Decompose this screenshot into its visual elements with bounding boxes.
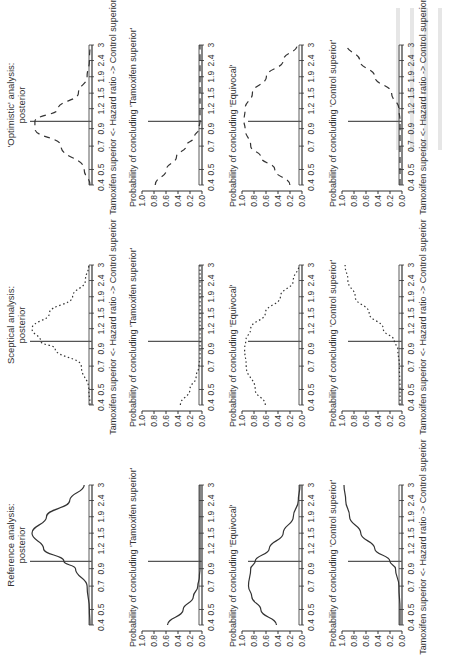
y-tick-label: 0.0 [197, 635, 207, 647]
x-tick-label: 2.4 [206, 494, 216, 506]
x-tick-label: 0.4 [96, 179, 106, 191]
y-tick-label: 1.0 [137, 415, 147, 427]
probability-panel: Probability of concluding 'Control super… [328, 439, 428, 655]
y-tick-label: 0.0 [397, 195, 407, 207]
y-tick-label: 1.0 [237, 195, 247, 207]
x-tick-label: 0.4 [406, 399, 416, 411]
y-tick-label: 1.0 [337, 415, 347, 427]
data-curve [32, 485, 90, 625]
column-reference: Reference analysis:posterior0.40.50.70.9… [5, 439, 428, 655]
x-axis-label: Tamoxifen superior <- Hazard ratio -> Co… [418, 0, 428, 215]
x-tick-label: 0.5 [96, 163, 106, 175]
x-tick-label: 1.9 [406, 511, 416, 523]
x-tick-label: 0.4 [206, 399, 216, 411]
x-tick-label: 2.4 [306, 54, 316, 66]
x-tick-label: 0.5 [406, 163, 416, 175]
x-tick-label: 0.7 [406, 360, 416, 372]
column-sceptical: Sceptical analysis:posterior0.40.50.70.9… [5, 219, 428, 435]
column-title: 'Optimistic' analysis: [5, 63, 16, 148]
y-tick-label: 0.2 [185, 635, 195, 647]
x-tick-label: 0.4 [306, 399, 316, 411]
x-tick-label: 3 [306, 482, 316, 487]
x-tick-label: 1.9 [96, 291, 106, 303]
column-title: Sceptical analysis: [5, 286, 16, 364]
x-tick-label: 1.2 [96, 102, 106, 114]
posterior-panel: 0.40.50.70.91.21.51.92.43 [30, 482, 106, 631]
posterior-panel: 0.40.50.70.91.21.51.92.43Tamoxifen super… [30, 0, 118, 215]
x-tick-label: 1.2 [406, 102, 416, 114]
x-tick-label: 0.7 [306, 360, 316, 372]
x-tick-label: 0.5 [206, 603, 216, 615]
x-tick-label: 1.2 [406, 542, 416, 554]
x-tick-label: 0.5 [306, 383, 316, 395]
x-tick-label: 2.4 [96, 54, 106, 66]
y-tick-label: 0.4 [273, 635, 283, 647]
x-tick-label: 0.7 [206, 360, 216, 372]
x-tick-label: 1.2 [96, 322, 106, 334]
x-tick-label: 0.7 [96, 140, 106, 152]
y-tick-label: 0.6 [361, 635, 371, 647]
x-tick-label: 0.5 [96, 603, 106, 615]
x-tick-label: 0.4 [306, 619, 316, 631]
x-tick-label: 0.5 [306, 603, 316, 615]
probability-panel: Probability of concluding 'Equivocal'1.0… [228, 262, 316, 427]
x-tick-label: 2.4 [306, 494, 316, 506]
probability-panel: Probability of concluding 'Tamoxifen sup… [128, 247, 216, 427]
y-tick-label: 0.8 [249, 195, 259, 207]
y-tick-label: 0.4 [273, 195, 283, 207]
x-tick-label: 0.9 [96, 562, 106, 574]
x-tick-label: 0.9 [206, 562, 216, 574]
x-tick-label: 0.5 [206, 383, 216, 395]
posterior-panel: 0.40.50.70.91.21.51.92.43Tamoxifen super… [30, 219, 118, 435]
x-tick-label: 3 [206, 262, 216, 267]
x-tick-label: 1.5 [206, 527, 216, 539]
x-tick-label: 1.2 [206, 102, 216, 114]
panel-title: Probability of concluding 'Tamoxifen sup… [128, 247, 138, 427]
panel-title: Probability of concluding 'Equivocal' [228, 504, 238, 647]
x-tick-label: 0.4 [206, 619, 216, 631]
rotated-figure: Reference analysis:posterior0.40.50.70.9… [0, 0, 454, 663]
column-subtitle: posterior [16, 307, 27, 344]
x-tick-label: 1.5 [406, 87, 416, 99]
x-tick-label: 2.4 [406, 274, 416, 286]
x-tick-label: 1.2 [406, 322, 416, 334]
x-tick-label: 1.9 [96, 71, 106, 83]
data-curve [244, 45, 297, 185]
data-curve [344, 485, 400, 625]
x-tick-label: 1.5 [96, 307, 106, 319]
y-tick-label: 0.0 [197, 415, 207, 427]
y-tick-label: 0.4 [173, 195, 183, 207]
y-tick-label: 0.6 [361, 195, 371, 207]
y-tick-label: 0.6 [261, 635, 271, 647]
panel-title: Probability of concluding 'Equivocal' [228, 284, 238, 427]
x-tick-label: 0.4 [306, 179, 316, 191]
x-tick-label: 1.9 [306, 291, 316, 303]
x-tick-label: 0.9 [206, 342, 216, 354]
x-tick-label: 0.7 [306, 580, 316, 592]
x-tick-label: 1.9 [406, 291, 416, 303]
x-tick-label: 1.9 [406, 71, 416, 83]
x-tick-label: 0.9 [206, 122, 216, 134]
x-tick-label: 3 [406, 42, 416, 47]
column-subtitle: posterior [16, 527, 27, 564]
probability-panel: Probability of concluding 'Tamoxifen sup… [128, 467, 216, 647]
x-tick-label: 2.4 [206, 54, 216, 66]
data-curve [180, 265, 200, 405]
y-tick-label: 1.0 [137, 195, 147, 207]
x-tick-label: 1.5 [96, 527, 106, 539]
y-tick-label: 0.8 [349, 195, 359, 207]
y-tick-label: 1.0 [237, 635, 247, 647]
x-tick-label: 1.5 [206, 87, 216, 99]
y-tick-label: 0.0 [297, 635, 307, 647]
y-tick-label: 0.4 [173, 415, 183, 427]
x-tick-label: 0.7 [206, 140, 216, 152]
y-tick-label: 0.2 [385, 195, 395, 207]
x-axis-label: Tamoxifen superior <- Hazard ratio -> Co… [418, 219, 428, 435]
x-tick-label: 2.4 [206, 274, 216, 286]
x-tick-label: 0.4 [406, 619, 416, 631]
x-tick-label: 1.9 [306, 511, 316, 523]
x-tick-label: 1.9 [206, 71, 216, 83]
data-curve [347, 45, 400, 185]
x-tick-label: 0.9 [406, 342, 416, 354]
y-tick-label: 1.0 [237, 415, 247, 427]
